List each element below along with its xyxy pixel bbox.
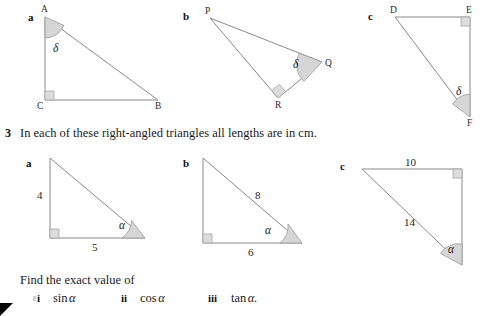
sin-label: sin (53, 291, 68, 305)
figure-triangle-def (340, 0, 486, 130)
vertex-label-p: P (205, 6, 210, 16)
subpart-numeral-iii: iii (208, 291, 217, 305)
side-label-3b-hypotenuse: 8 (255, 190, 261, 201)
triangle-3b-outline (203, 158, 302, 243)
vertex-label-a: A (41, 4, 48, 14)
angle-label-delta-c: δ (456, 85, 461, 97)
angle-label-alpha-3a: α (119, 219, 125, 231)
alpha-symbol-i: α (68, 291, 76, 305)
side-label-3c-hypotenuse: 14 (404, 217, 415, 228)
right-angle-marker-at-e (461, 17, 470, 26)
vertex-label-c: C (37, 101, 43, 111)
question-number: 3 (5, 126, 11, 140)
alpha-symbol-iii: α. (246, 291, 257, 305)
tan-label: tan (231, 291, 246, 305)
vertex-label-f: F (467, 118, 472, 128)
vertex-label-d: D (390, 5, 397, 15)
cos-label: cos (140, 291, 157, 305)
scan-artifact-speck (33, 296, 36, 301)
side-label-3c-horizontal: 10 (405, 157, 416, 168)
vertex-label-r: R (275, 100, 281, 110)
figure-triangle-3a (0, 145, 180, 255)
find-instruction-text: Find the exact value of (20, 273, 135, 288)
angle-label-delta-a: δ (53, 42, 58, 54)
angle-label-alpha-3c: α (448, 243, 454, 255)
subpart-numeral-ii: ii (121, 291, 127, 305)
page-corner-marker (0, 303, 13, 316)
right-angle-marker-3a (50, 229, 59, 238)
subpart-expression-iii: tanα. (231, 291, 257, 305)
side-label-3b-horizontal: 6 (248, 247, 254, 258)
subpart-expression-ii: cosα (140, 291, 165, 305)
alpha-symbol-ii: α (157, 291, 165, 305)
figure-triangle-3b (160, 145, 330, 260)
angle-label-alpha-3b: α (265, 224, 271, 236)
question-text: In each of these right-angled triangles … (20, 126, 317, 141)
right-angle-marker-at-c (45, 91, 54, 100)
figure-triangle-pqr (160, 0, 340, 115)
subpart-expression-i: sinα (53, 291, 76, 305)
right-angle-marker-3c (453, 169, 462, 178)
side-label-3a-vertical: 4 (37, 190, 43, 201)
right-angle-marker-3b (203, 234, 212, 243)
side-label-3a-horizontal: 5 (92, 242, 98, 253)
angle-arc-delta-at-q (297, 53, 322, 81)
subpart-numeral-i: i (37, 291, 40, 305)
vertex-label-e: E (466, 5, 472, 15)
worksheet-page: a A C B δ b P Q R δ c D E F δ 3 In each … (0, 0, 486, 316)
vertex-label-q: Q (325, 58, 332, 68)
angle-label-delta-b: δ (293, 58, 298, 70)
